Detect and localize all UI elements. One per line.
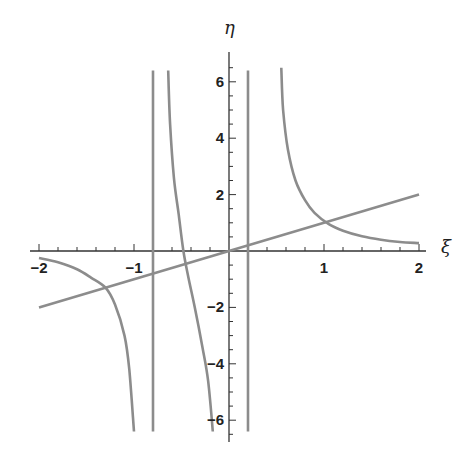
axes [30, 52, 426, 442]
series-curve-right-branch [281, 68, 419, 243]
x-tick-label: 1 [320, 259, 328, 276]
y-tick-label: 2 [216, 186, 224, 203]
y-tick-label: −6 [207, 411, 224, 428]
y-tick-label: −4 [207, 355, 225, 372]
x-tick-label: −2 [30, 259, 47, 276]
y-tick-label: 4 [216, 129, 225, 146]
y-tick-label: 6 [216, 73, 224, 90]
x-tick-label: 2 [415, 259, 423, 276]
x-tick-label: −1 [125, 259, 142, 276]
x-axis-label: ξ [441, 236, 452, 257]
chart-plot: −2−112−6−4−2246 ξ η [0, 0, 474, 474]
y-tick-label: −2 [207, 298, 224, 315]
y-axis-label: η [224, 17, 235, 38]
